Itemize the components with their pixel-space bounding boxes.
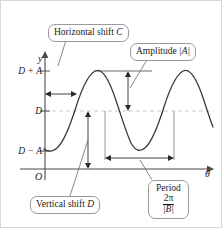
callout-horizontal-shift-var: C xyxy=(116,27,122,37)
period-numerator: 2π xyxy=(163,194,174,204)
callout-vertical-shift-var: D xyxy=(87,199,94,209)
tick-label-d: D xyxy=(2,106,42,116)
callout-horizontal-shift: Horizontal shift C xyxy=(48,24,129,42)
trig-transformation-figure: y = A sin(B(θ − C)) + D xyxy=(0,0,222,228)
callout-vertical-shift: Vertical shift D xyxy=(30,196,100,214)
callout-horizontal-shift-text: Horizontal shift xyxy=(54,27,116,37)
y-axis-label: y xyxy=(38,53,42,64)
callout-amplitude: Amplitude |A| xyxy=(130,43,196,61)
tick-label-d-minus-a: D − A xyxy=(2,146,42,156)
period-fraction: 2π |B| xyxy=(163,194,174,215)
callout-amplitude-text: Amplitude xyxy=(136,46,179,56)
origin-label: O xyxy=(35,171,42,182)
callout-vertical-shift-text: Vertical shift xyxy=(36,199,87,209)
tick-label-d-plus-a: D + A xyxy=(2,66,42,76)
x-axis-label: θ xyxy=(205,168,210,179)
callout-amplitude-var: |A| xyxy=(179,46,190,56)
period-denominator: |B| xyxy=(163,204,174,215)
callout-period: Period 2π |B| xyxy=(148,180,189,219)
